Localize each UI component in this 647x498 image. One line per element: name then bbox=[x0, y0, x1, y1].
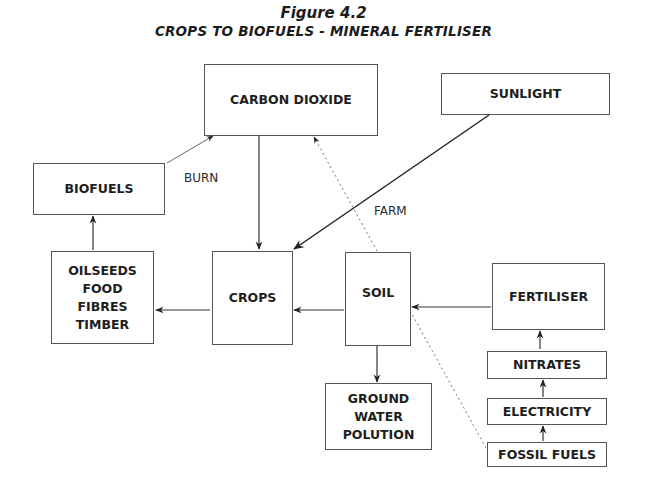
node-electricity-label: ELECTRICITY bbox=[503, 403, 591, 421]
node-electricity: ELECTRICITY bbox=[487, 398, 607, 425]
node-ground-water-pollution: GROUND WATER POLUTION bbox=[325, 383, 432, 450]
node-nitrates-label: NITRATES bbox=[513, 356, 581, 374]
product-food: FOOD bbox=[82, 280, 122, 298]
node-crops-label: CROPS bbox=[229, 289, 277, 307]
node-fossil-fuels-label: FOSSIL FUELS bbox=[498, 446, 596, 464]
node-nitrates: NITRATES bbox=[487, 351, 607, 379]
product-oilseeds: OILSEEDS bbox=[68, 262, 137, 280]
edge-label-burn: BURN bbox=[184, 171, 218, 185]
burn-arrow bbox=[167, 136, 213, 163]
node-biofuels: BIOFUELS bbox=[33, 163, 165, 215]
product-fibres: FIBRES bbox=[78, 298, 128, 316]
product-timber: TIMBER bbox=[76, 316, 129, 334]
groundwater-line-3: POLUTION bbox=[343, 426, 415, 444]
node-biofuels-label: BIOFUELS bbox=[64, 180, 133, 198]
node-soil-label: SOIL bbox=[362, 284, 394, 302]
node-sunlight-label: SUNLIGHT bbox=[490, 85, 561, 103]
groundwater-line-1: GROUND bbox=[348, 390, 410, 408]
groundwater-line-2: WATER bbox=[354, 408, 403, 426]
node-fossil-fuels: FOSSIL FUELS bbox=[487, 442, 607, 467]
node-fertiliser-label: FERTILISER bbox=[509, 288, 588, 306]
node-products: OILSEEDS FOOD FIBRES TIMBER bbox=[51, 251, 154, 344]
node-carbon-dioxide-label: CARBON DIOXIDE bbox=[230, 91, 352, 109]
node-sunlight: SUNLIGHT bbox=[441, 73, 610, 115]
node-crops: CROPS bbox=[212, 251, 293, 345]
edge-label-farm: FARM bbox=[374, 204, 407, 218]
node-carbon-dioxide: CARBON DIOXIDE bbox=[204, 64, 378, 136]
node-soil: SOIL bbox=[345, 252, 411, 346]
node-fertiliser: FERTILISER bbox=[492, 263, 605, 330]
